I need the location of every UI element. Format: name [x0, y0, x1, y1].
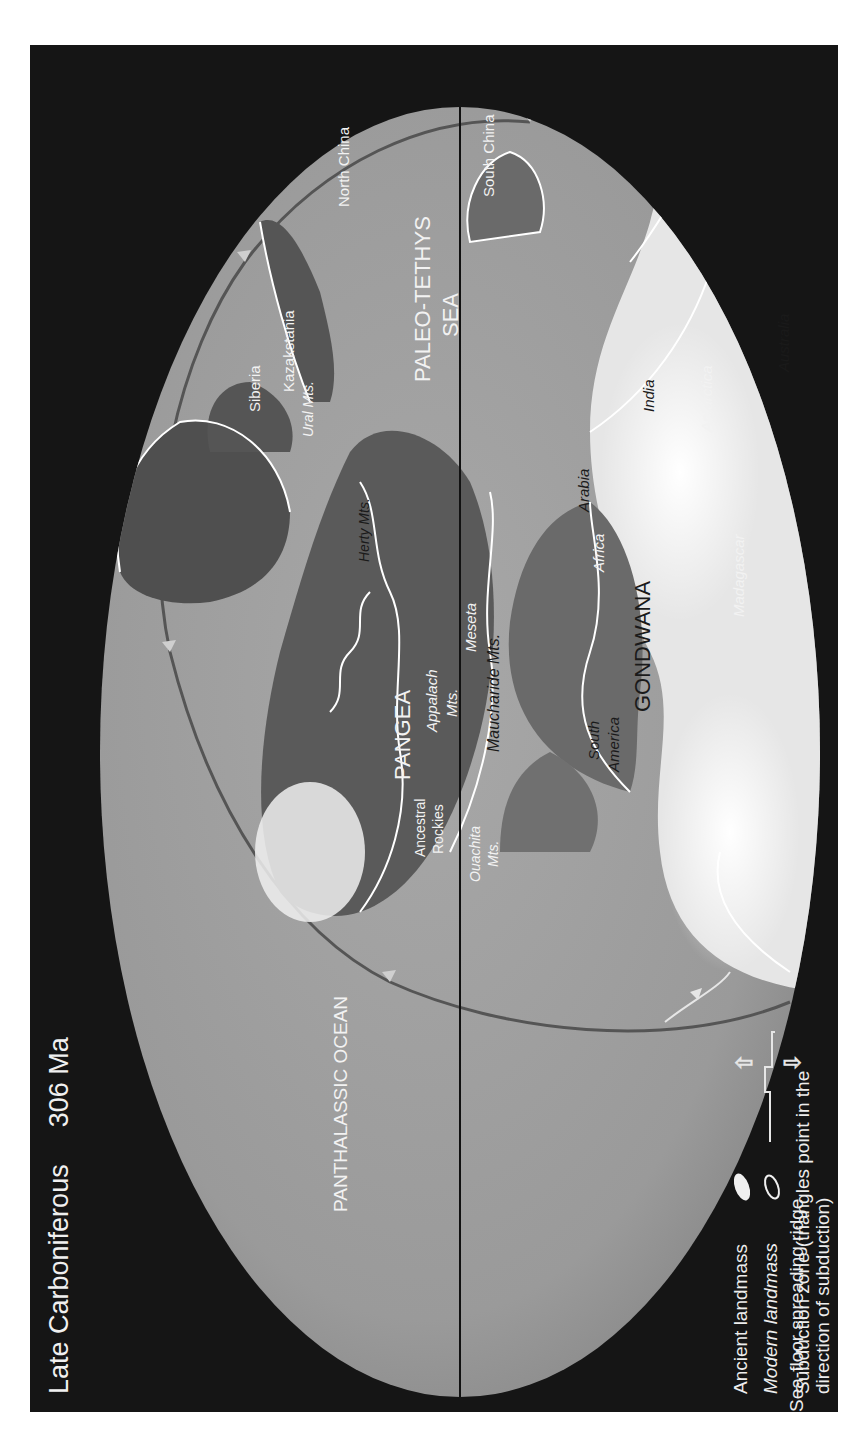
- paleo-tethys-label: PALEO-TETHYS: [410, 216, 436, 382]
- map-frame: ⇧ ⇩ Late Carboniferous 306 Ma PANTHALASS…: [30, 45, 838, 1412]
- ancestral-rockies-label-1: Ancestral: [412, 799, 428, 857]
- arabia-label: Arabia: [575, 469, 592, 512]
- siberia-label: Siberia: [246, 365, 263, 412]
- ouachita-mts-label-2: Mts.: [485, 841, 501, 867]
- south-america-label-1: South: [585, 721, 602, 760]
- ridge-arrow-left: ⇧: [732, 1054, 757, 1072]
- period-label: Late Carboniferous: [44, 1164, 74, 1394]
- map-title: Late Carboniferous 306 Ma: [44, 1037, 75, 1394]
- legend-subduction-2: direction of subduction): [812, 1198, 834, 1394]
- south-china-label: South China: [480, 114, 497, 197]
- south-america-label-2: America: [605, 717, 622, 772]
- ural-mts-label: Ural Mts.: [300, 381, 316, 437]
- gondwana-label: GONDWANA: [630, 581, 656, 712]
- africa-label: Africa: [590, 534, 607, 572]
- antarctica-label: Antarctica: [698, 365, 715, 432]
- madagascar-label: Madagascar: [730, 534, 747, 617]
- ancient-landmass-symbol: [731, 1171, 754, 1202]
- meseta-label: Meseta: [462, 603, 479, 652]
- maucharide-mts-label: Maucharide Mts.: [485, 634, 503, 752]
- legend-modern: Modern landmass: [760, 1243, 782, 1394]
- kazakstania-label: Kazakstania: [280, 310, 297, 392]
- paleo-tethys-sea-label: SEA: [438, 293, 464, 337]
- map-canvas: ⇧ ⇩ Late Carboniferous 306 Ma PANTHALASS…: [30, 45, 838, 1412]
- india-label: India: [640, 379, 657, 412]
- ancestral-rockies-label-2: Rockies: [430, 804, 446, 854]
- age-label: 306 Ma: [44, 1037, 74, 1127]
- legend-ancient: Ancient landmass: [730, 1244, 752, 1394]
- appalach-mts-label-2: Mts.: [443, 689, 460, 717]
- pangea-label: PANGEA: [390, 690, 416, 780]
- north-china-label: North China: [335, 127, 352, 207]
- australia-label: Australia: [775, 314, 792, 372]
- panthalassic-ocean-label: PANTHALASSIC OCEAN: [330, 996, 352, 1212]
- modern-landmass-symbol: [762, 1174, 781, 1201]
- ridge-arrow-right: ⇩: [780, 1054, 805, 1072]
- hercynian-mts-label: Herty Mts.: [356, 498, 372, 562]
- legend-ridge: Sea-floor spreading ridge: [786, 1199, 808, 1412]
- appalach-mts-label-1: Appalach: [423, 669, 440, 732]
- ouachita-mts-label-1: Ouachita: [467, 826, 483, 882]
